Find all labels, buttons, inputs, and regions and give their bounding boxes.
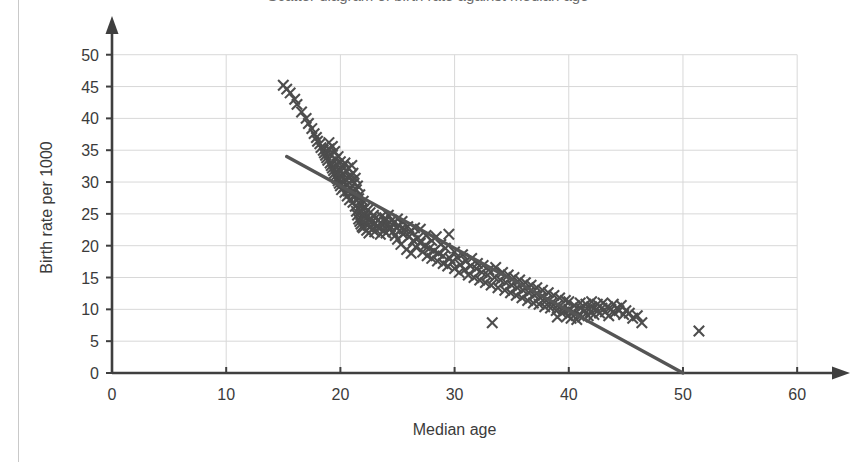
scatter-chart: 051015202530354045500102030405060Median …: [0, 0, 856, 462]
trend-line: [287, 157, 683, 373]
svg-text:0: 0: [108, 386, 117, 403]
svg-text:0: 0: [90, 365, 99, 382]
svg-text:60: 60: [788, 386, 806, 403]
svg-text:15: 15: [81, 270, 99, 287]
chart-svg: 051015202530354045500102030405060Median …: [0, 0, 856, 462]
chart-page: Scatter diagram of birth rate against me…: [0, 0, 856, 462]
svg-text:10: 10: [81, 301, 99, 318]
svg-text:20: 20: [81, 238, 99, 255]
svg-text:Median age: Median age: [413, 421, 497, 438]
svg-text:50: 50: [81, 47, 99, 64]
svg-text:45: 45: [81, 79, 99, 96]
svg-text:20: 20: [331, 386, 349, 403]
svg-text:35: 35: [81, 142, 99, 159]
axes: [106, 16, 851, 380]
svg-text:10: 10: [217, 386, 235, 403]
svg-text:30: 30: [81, 174, 99, 191]
svg-text:40: 40: [560, 386, 578, 403]
svg-text:Birth rate per 1000: Birth rate per 1000: [38, 141, 55, 274]
svg-text:40: 40: [81, 110, 99, 127]
svg-text:50: 50: [674, 386, 692, 403]
svg-text:5: 5: [90, 333, 99, 350]
svg-text:25: 25: [81, 206, 99, 223]
svg-text:30: 30: [446, 386, 464, 403]
